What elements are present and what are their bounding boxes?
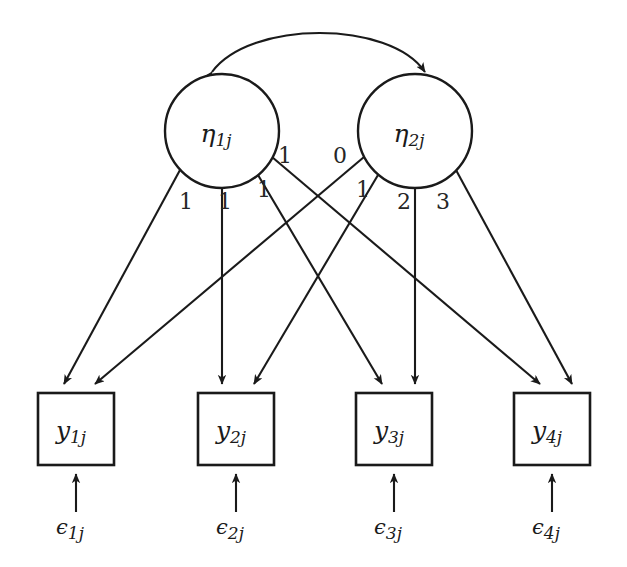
latent-factor-eta2[interactable]: η2j [358,74,472,188]
covariance-path [212,33,425,72]
observed-variable-y1[interactable]: y1j [38,393,114,465]
coef-label-eta1-y3: 1 [257,177,271,202]
path-eta2-to-y2 [254,175,378,384]
observed-variable-y3[interactable]: y3j [356,393,432,465]
path-diagram-canvas: η1j η2j y1j y2j y3j y4j ϵ1j ϵ2j ϵ3j ϵ4j [0,0,627,567]
coef-label-eta1-y4: 1 [278,143,292,168]
error-label-eps1: ϵ1j [56,515,85,543]
path-eta2-to-y4 [456,170,572,384]
coef-label-eta1-y2: 1 [218,189,232,214]
coef-label-eta2-y1: 0 [333,143,347,168]
covariance-arrow [212,33,425,72]
observed-variable-y4[interactable]: y4j [514,393,590,465]
coef-label-eta2-y4: 3 [436,189,450,214]
error-label-eps3: ϵ3j [374,515,403,543]
error-label-eps2: ϵ2j [216,515,245,543]
path-eta1-to-y1 [64,170,180,384]
coef-label-eta1-y1: 1 [179,189,193,214]
observed-variable-y2[interactable]: y2j [198,393,274,465]
path-eta1-to-y3 [258,175,382,384]
error-label-eps4: ϵ4j [532,515,561,543]
path-diagram-svg: η1j η2j y1j y2j y3j y4j ϵ1j ϵ2j ϵ3j ϵ4j [0,0,627,567]
coef-label-eta2-y3: 2 [397,189,411,214]
error-paths [76,474,552,512]
coef-label-eta2-y2: 1 [356,177,370,202]
latent-factor-eta1[interactable]: η1j [165,74,279,188]
